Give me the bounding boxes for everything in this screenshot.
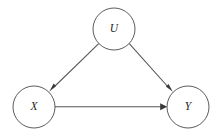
node-y[interactable]: Y <box>167 86 209 128</box>
node-u-label: U <box>110 22 119 34</box>
edge-x-to-y <box>55 103 167 110</box>
edge-u-to-x <box>49 44 98 92</box>
edge-u-to-y-line <box>129 44 169 88</box>
dag-canvas: U X Y <box>0 0 219 140</box>
edge-u-to-x-arrowhead <box>49 84 56 92</box>
edge-x-to-y-arrowhead <box>160 103 167 110</box>
edge-u-to-y <box>129 44 173 92</box>
node-u[interactable]: U <box>93 8 135 50</box>
node-x-label: X <box>29 100 38 112</box>
edge-u-to-x-line <box>53 44 99 88</box>
node-group: U X Y <box>13 8 209 128</box>
causal-dag-diagram: U X Y <box>0 0 219 140</box>
edge-group <box>49 44 173 111</box>
node-x[interactable]: X <box>13 86 55 128</box>
